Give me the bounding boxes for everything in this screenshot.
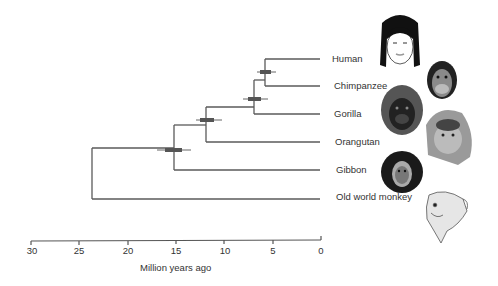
- time-axis: [31, 236, 321, 245]
- old-world-monkey-face-icon: [426, 192, 467, 243]
- taxon-label-gibbon: Gibbon: [336, 164, 367, 175]
- axis-tick-15: 15: [171, 245, 182, 256]
- axis-tick-5: 5: [270, 245, 275, 256]
- axis-title: Million years ago: [140, 262, 211, 273]
- orangutan-face-icon: [426, 110, 472, 165]
- axis-tick-10: 10: [220, 245, 231, 256]
- chimpanzee-face-icon: [427, 61, 457, 99]
- axis-tick-25: 25: [74, 245, 85, 256]
- axis-tick-30: 30: [27, 245, 38, 256]
- error-bars: [157, 70, 276, 152]
- human-face-icon: [380, 15, 420, 67]
- taxon-label-gorilla: Gorilla: [334, 108, 361, 119]
- axis-tick-20: 20: [123, 245, 134, 256]
- taxon-label-chimpanzee: Chimpanzee: [334, 80, 387, 91]
- phylogenetic-tree: [0, 0, 498, 286]
- taxon-label-orangutan: Orangutan: [335, 136, 380, 147]
- taxon-label-human: Human: [332, 53, 363, 64]
- gibbon-face-icon: [381, 151, 423, 193]
- taxon-label-old-world-monkey: Old world monkey: [336, 191, 412, 202]
- axis-tick-0: 0: [318, 245, 323, 256]
- gorilla-face-icon: [381, 85, 423, 135]
